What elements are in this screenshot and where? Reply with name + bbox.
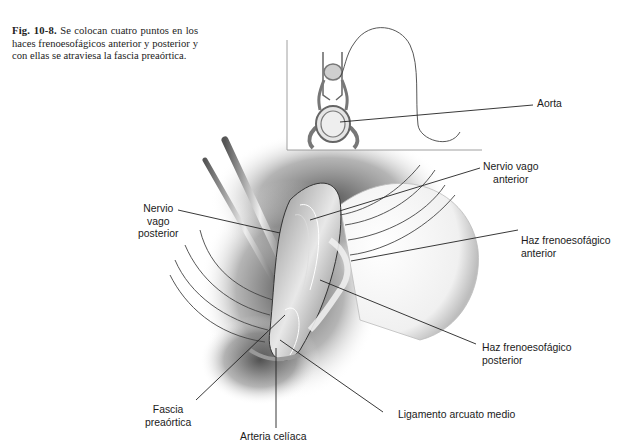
label-nervio-vago-anterior: Nervio vago anterior — [483, 161, 538, 186]
label-fascia-preaortica: Fascia preaórtica — [145, 404, 191, 429]
label-arteria-celiaca: Arteria celíaca — [240, 431, 306, 444]
label-nervio-vago-posterior: Nervio vago posterior — [138, 203, 178, 241]
surgical-illustration — [0, 0, 630, 445]
inset-aorta-detail — [287, 26, 482, 150]
label-aorta: Aorta — [537, 98, 562, 111]
label-ligamento-arcuato-medio: Ligamento arcuato medio — [398, 409, 515, 422]
label-haz-frenoesofagico-posterior: Haz frenoesofágico posterior — [482, 342, 572, 367]
label-haz-frenoesofagico-anterior: Haz frenoesofágico anterior — [521, 235, 611, 260]
